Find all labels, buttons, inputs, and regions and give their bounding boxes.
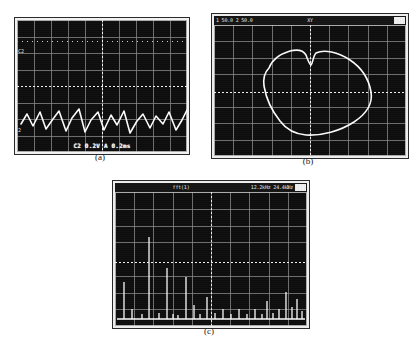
channel-marker-a-bottom: 2 xyxy=(18,128,21,133)
panel-c: fft(1) 12.2kHz 24.4kHz 1 xyxy=(113,181,305,324)
readout-c-source: fft(1) xyxy=(173,183,190,192)
channel-marker-a-top: C2 xyxy=(18,49,24,54)
readout-b-mode: XY xyxy=(307,16,313,25)
readout-b-channels: 1 50.0 2 50.0 xyxy=(216,16,253,25)
scope-screen-a: C2 2 C2 0.2V A 0.2ms xyxy=(15,18,189,154)
xy-loop-trace-b xyxy=(214,16,406,156)
readout-b-indicator xyxy=(394,17,405,24)
caption-b: (b) xyxy=(212,156,404,166)
waveform-trace-a xyxy=(17,20,187,152)
scope-screen-b: 1 50.0 2 50.0 XY xyxy=(212,14,408,158)
readout-top-c: fft(1) 12.2kHz 24.4kHz 1 xyxy=(115,183,307,192)
caption-c: (c) xyxy=(113,326,305,336)
panel-a: C2 2 C2 0.2V A 0.2ms (a) xyxy=(15,18,185,150)
caption-a: (a) xyxy=(15,152,185,162)
fft-spectrum-trace-c xyxy=(115,183,307,326)
readout-c-indicator xyxy=(295,184,306,191)
readout-bottom-a: C2 0.2V A 0.2ms xyxy=(17,141,187,151)
panel-b: 1 50.0 2 50.0 XY (b) xyxy=(212,14,404,154)
readout-top-b: 1 50.0 2 50.0 XY xyxy=(214,16,406,25)
scope-screen-c: fft(1) 12.2kHz 24.4kHz 1 xyxy=(113,181,309,328)
readout-c-channel: 1 xyxy=(286,183,289,192)
